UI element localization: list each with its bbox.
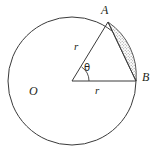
point-label-b: B <box>142 71 149 83</box>
point-label-o: O <box>29 85 38 97</box>
radius-label-oa: r <box>74 41 78 52</box>
radius-label-ob: r <box>95 85 99 96</box>
circle-segment-diagram: A B O r r θ <box>0 0 160 158</box>
angle-label-theta: θ <box>84 63 90 73</box>
geometry-canvas <box>0 0 160 158</box>
point-label-a: A <box>101 4 108 16</box>
